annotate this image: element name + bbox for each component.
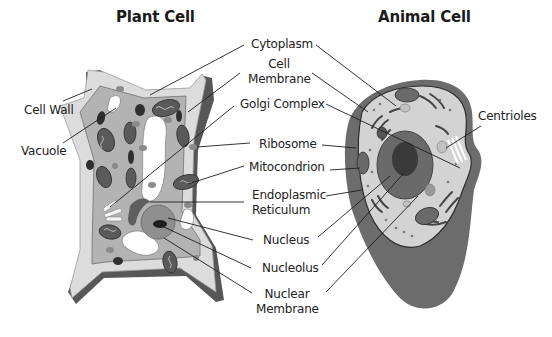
label-nuclear-membrane: Nuclear Membrane [256,287,318,317]
label-nuclear-membrane-line1: Nuclear [256,287,318,302]
label-cell-membrane-line2: Membrane [248,72,310,87]
label-cytoplasm: Cytoplasm [251,37,313,52]
label-cell-membrane-line1: Cell [248,57,310,72]
animal-nucleolus [392,142,418,176]
label-nucleolus: Nucleolus [262,261,319,276]
plant-cell [60,70,224,304]
label-nuclear-membrane-line2: Membrane [256,302,318,317]
label-er-line2: Reticulum [252,203,326,218]
label-cell-wall: Cell Wall [24,103,74,118]
label-endoplasmic-reticulum: Endoplasmic Reticulum [252,188,326,218]
label-er-line1: Endoplasmic [252,188,326,203]
animal-cell-title: Animal Cell [378,8,471,26]
cell-diagram: Plant Cell Animal Cell Cell Wall Vacuole… [0,0,552,337]
label-mitocondrion: Mitocondrion [249,160,325,175]
plant-nucleolus [153,220,167,228]
animal-cell [345,80,482,309]
label-centrioles: Centrioles [478,109,537,124]
label-ribosome: Ribosome [259,137,317,152]
plant-cell-title: Plant Cell [116,8,195,26]
label-nucleus: Nucleus [263,233,309,248]
label-golgi-complex: Golgi Complex [240,97,325,112]
label-vacuole: Vacuole [21,144,67,159]
label-cell-membrane: Cell Membrane [248,57,310,87]
